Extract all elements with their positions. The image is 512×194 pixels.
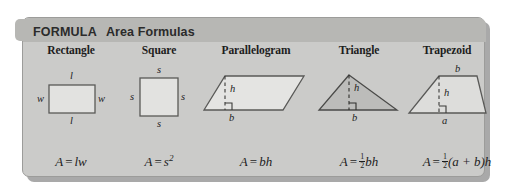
triangle-label-base: b <box>352 112 357 123</box>
formula-columns: Rectangle l l w w A=lw Square <box>23 42 486 177</box>
formula-card-figure: FORMULAArea Formulas Rectangle l l w w A… <box>0 0 512 194</box>
figure-parallelogram: h b <box>201 61 311 137</box>
triangle-label-height: h <box>354 82 359 93</box>
formula-rectangle-lhs: A <box>55 154 63 169</box>
column-trapezoid: Trapezoid b h a A=12(a + b)h <box>405 42 509 177</box>
column-title-trapezoid: Trapezoid <box>405 44 489 56</box>
formula-rectangle-eq: = <box>63 154 74 169</box>
header-title: Area Formulas <box>106 25 195 39</box>
formula-square-exponent: 2 <box>169 153 174 163</box>
formula-parallelogram: A=bh <box>201 154 311 170</box>
formula-trapezoid-rhs: (a + b)h <box>448 154 491 169</box>
column-title-square: Square <box>119 44 199 56</box>
column-triangle: Triangle h b A=12bh <box>311 42 407 177</box>
figure-square: s s s s <box>119 61 199 137</box>
formula-trapezoid-lhs: A <box>423 154 431 169</box>
rectangle-label-top: l <box>70 70 73 81</box>
trapezoid-label-top: b <box>455 63 460 74</box>
formula-rectangle: A=lw <box>27 154 115 170</box>
figure-rectangle: l l w w <box>27 61 115 137</box>
parallelogram-drawing <box>201 61 311 137</box>
rectangle-label-bottom: l <box>70 115 73 126</box>
square-label-bottom: s <box>157 118 161 129</box>
rectangle-label-left: w <box>37 93 44 104</box>
column-title-rectangle: Rectangle <box>27 44 115 56</box>
parallelogram-label-height: h <box>230 83 235 94</box>
formula-square: A=s2 <box>119 153 199 170</box>
square-label-right: s <box>181 91 185 102</box>
formula-parallelogram-rhs: bh <box>259 154 272 169</box>
formula-triangle-eq: = <box>348 154 359 169</box>
formula-triangle-rhs: bh <box>365 154 378 169</box>
trapezoid-label-height: h <box>444 87 449 98</box>
column-square: Square s s s s A=s2 <box>119 42 199 177</box>
formula-triangle-lhs: A <box>340 154 348 169</box>
formula-rectangle-rhs: lw <box>75 154 87 169</box>
formula-square-lhs: A <box>145 154 153 169</box>
figure-trapezoid: b h a <box>405 61 509 137</box>
triangle-drawing <box>311 61 407 137</box>
trapezoid-label-bottom: a <box>442 115 447 126</box>
panel-header-text: FORMULAArea Formulas <box>33 21 195 40</box>
header-kicker: FORMULA <box>33 25 97 39</box>
column-parallelogram: Parallelogram h b A=bh <box>201 42 311 177</box>
formula-square-eq: = <box>153 154 164 169</box>
rectangle-label-right: w <box>98 93 105 104</box>
figure-triangle: h b <box>311 61 407 137</box>
formula-trapezoid: A=12(a + b)h <box>405 153 509 170</box>
formula-triangle: A=12bh <box>311 153 407 170</box>
formula-parallelogram-eq: = <box>248 154 259 169</box>
column-title-parallelogram: Parallelogram <box>201 44 311 56</box>
square-label-top: s <box>157 64 161 75</box>
parallelogram-label-base: b <box>229 112 234 123</box>
column-title-triangle: Triangle <box>311 44 407 56</box>
column-rectangle: Rectangle l l w w A=lw <box>27 42 115 177</box>
formula-parallelogram-lhs: A <box>240 154 248 169</box>
square-label-left: s <box>130 91 134 102</box>
formula-panel: FORMULAArea Formulas Rectangle l l w w A… <box>22 17 485 177</box>
formula-trapezoid-eq: = <box>431 154 442 169</box>
panel-header-band: FORMULAArea Formulas <box>23 18 486 42</box>
